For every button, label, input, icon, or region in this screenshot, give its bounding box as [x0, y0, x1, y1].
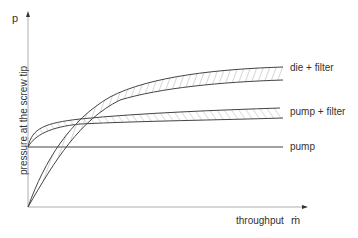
x-axis-symbol: ṁ [291, 214, 300, 226]
y-axis-label: pressure at the screw tip [18, 46, 29, 196]
curve-label-die-filter: die + filter [290, 62, 334, 73]
curve-label-pump-filter: pump + filter [290, 106, 345, 117]
x-axis [28, 205, 308, 209]
die-filter-band [28, 67, 283, 207]
x-axis-label: throughput [236, 215, 284, 226]
y-axis-symbol: p [12, 12, 18, 24]
diagram-canvas [0, 0, 358, 238]
curve-label-pump: pump [290, 141, 315, 152]
